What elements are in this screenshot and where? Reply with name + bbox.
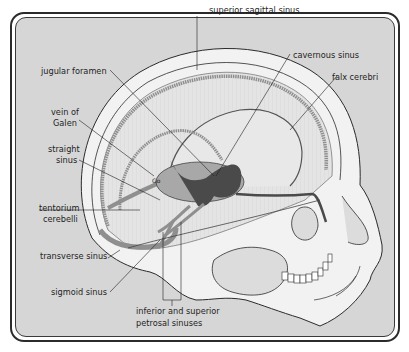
skull-diagram: Go superior sagittal sinus cavernous sin… — [0, 0, 409, 352]
label-jugular-foramen: jugular foramen — [40, 66, 107, 76]
label-vein-of-galen-2: Galen — [53, 118, 77, 128]
label-cavernous-sinus: cavernous sinus — [293, 50, 359, 60]
label-straight-sinus-1: straight — [48, 144, 81, 154]
maxilla — [212, 247, 287, 295]
galen-marker: Go — [152, 177, 161, 184]
label-tentorium-1: tentorium — [39, 203, 79, 213]
label-superior-sagittal-sinus: superior sagittal sinus — [209, 5, 300, 15]
label-tentorium-2: cerebelli — [43, 214, 78, 224]
label-sigmoid-sinus: sigmoid sinus — [51, 287, 107, 297]
label-vein-of-galen-1: vein of — [51, 107, 80, 117]
label-petrosal-2: petrosal sinuses — [136, 318, 202, 328]
label-petrosal-1: inferior and superior — [136, 306, 220, 316]
label-transverse-sinus: transverse sinus — [40, 251, 107, 261]
label-falx-cerebri: falx cerebri — [332, 72, 378, 82]
orbit — [292, 207, 318, 240]
label-straight-sinus-2: sinus — [56, 155, 77, 165]
